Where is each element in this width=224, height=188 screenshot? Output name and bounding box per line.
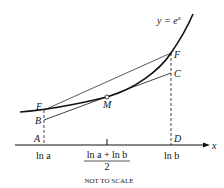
tick-label-ln-b: ln b bbox=[164, 150, 179, 161]
label-b: B bbox=[35, 115, 41, 126]
not-to-scale-note: NOT TO SCALE bbox=[84, 177, 133, 185]
curve-label: y = ex bbox=[156, 14, 182, 26]
x-axis-arrow-icon bbox=[203, 143, 210, 148]
diagram-canvas: x y = ex E B A M F C D ln a ln a + ln b … bbox=[0, 0, 224, 188]
label-f: F bbox=[173, 49, 181, 60]
label-d: D bbox=[173, 133, 182, 144]
label-c: C bbox=[174, 68, 181, 79]
tick-label-mid-numerator: ln a + ln b bbox=[87, 149, 128, 160]
label-m: M bbox=[102, 99, 112, 110]
tick-label-ln-a: ln a bbox=[36, 150, 51, 161]
label-a: A bbox=[33, 133, 41, 144]
x-axis-label: x bbox=[211, 140, 217, 151]
label-e: E bbox=[35, 101, 42, 112]
tick-label-mid-denominator: 2 bbox=[105, 161, 110, 172]
